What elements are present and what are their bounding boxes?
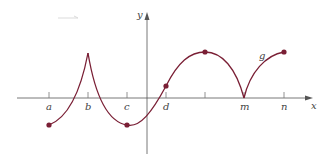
tick-label-d: d: [163, 101, 169, 112]
point-n: [281, 49, 286, 54]
x-axis-label: x: [311, 100, 317, 111]
tick-label-a: a: [46, 101, 52, 112]
curve-label-g: g: [259, 50, 265, 61]
point-d: [163, 83, 168, 88]
point-c: [124, 122, 129, 127]
tick-label-n: n: [281, 101, 287, 112]
curve-g: [49, 52, 284, 125]
faint-arrow-icon: [58, 16, 78, 18]
tick-label-m: m: [240, 101, 249, 112]
tick-label-c: c: [124, 101, 130, 112]
x-axis: [17, 96, 313, 101]
y-axis-arrow-icon: [145, 12, 150, 20]
curve-points: [46, 49, 286, 127]
y-axis: [145, 12, 150, 154]
function-graph: a b c d m n x y g: [0, 0, 330, 161]
point-max: [202, 49, 207, 54]
y-axis-label: y: [136, 9, 143, 20]
point-a: [46, 122, 51, 127]
x-ticks: [49, 92, 284, 98]
tick-label-b: b: [85, 101, 91, 112]
